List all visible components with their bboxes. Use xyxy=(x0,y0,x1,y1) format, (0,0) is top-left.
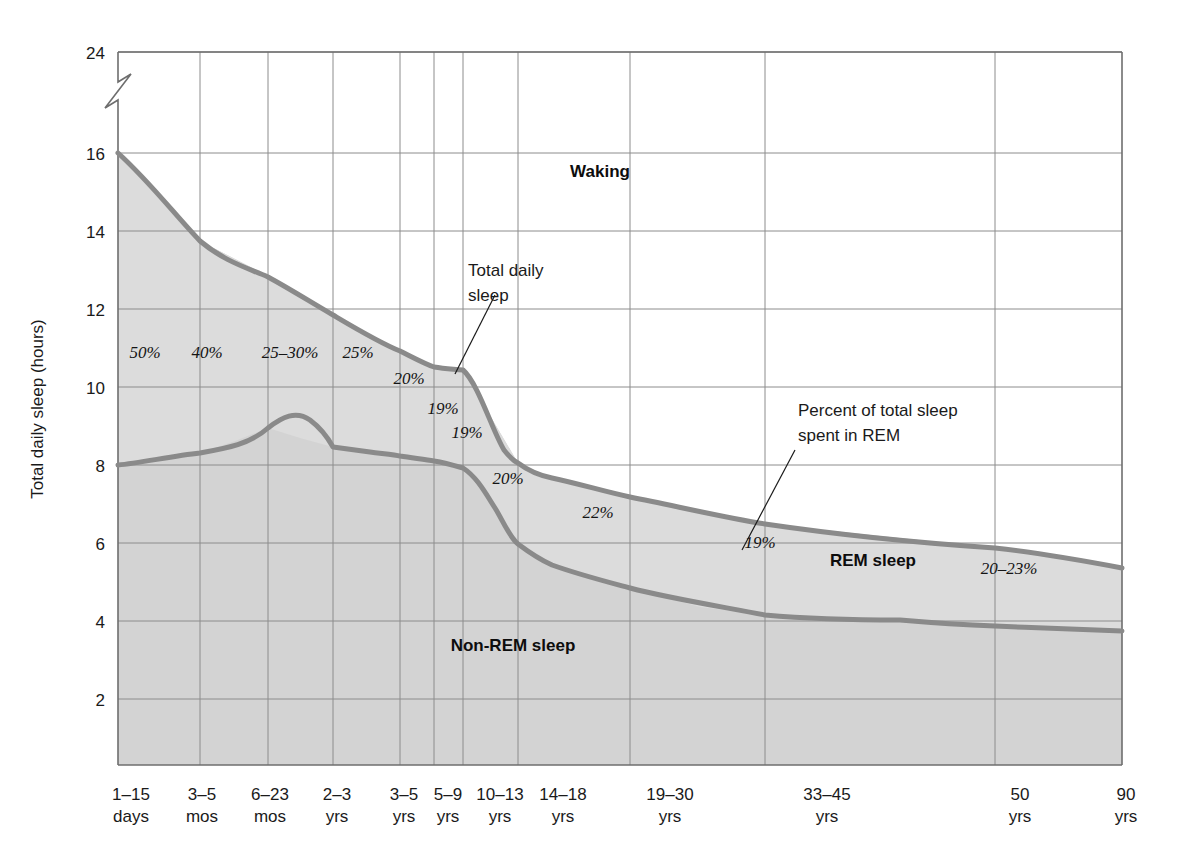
svg-text:yrs: yrs xyxy=(552,807,575,826)
svg-text:50: 50 xyxy=(1011,785,1030,804)
svg-text:yrs: yrs xyxy=(1009,807,1032,826)
svg-text:3–5: 3–5 xyxy=(390,785,418,804)
svg-text:days: days xyxy=(113,807,149,826)
y-tick-10: 10 xyxy=(86,379,105,398)
svg-text:14–18: 14–18 xyxy=(539,785,586,804)
svg-text:spent in REM: spent in REM xyxy=(798,426,900,445)
y-tick-6: 6 xyxy=(96,535,105,554)
rem-pct-label-20a: 20% xyxy=(393,369,424,388)
svg-text:yrs: yrs xyxy=(437,807,460,826)
svg-text:Percent of total sleep: Percent of total sleep xyxy=(798,401,958,420)
x-tick-2-3-yrs: 2–3 yrs xyxy=(323,785,351,826)
rem-pct-label-19a: 19% xyxy=(427,399,458,418)
y-tick-8: 8 xyxy=(96,457,105,476)
svg-text:10–13: 10–13 xyxy=(476,785,523,804)
svg-text:mos: mos xyxy=(254,807,286,826)
y-tick-24: 24 xyxy=(86,44,105,63)
y-tick-2: 2 xyxy=(96,691,105,710)
svg-text:1–15: 1–15 xyxy=(112,785,150,804)
rem-pct-label-19c: 19% xyxy=(744,533,775,552)
x-tick-10-13-yrs: 10–13 yrs xyxy=(476,785,523,826)
y-tick-16: 16 xyxy=(86,145,105,164)
svg-text:sleep: sleep xyxy=(468,286,509,305)
rem-pct-label-40: 40% xyxy=(191,343,222,362)
y-tick-4: 4 xyxy=(96,613,105,632)
svg-text:33–45: 33–45 xyxy=(803,785,850,804)
svg-text:yrs: yrs xyxy=(393,807,416,826)
svg-text:yrs: yrs xyxy=(489,807,512,826)
rem-pct-label-25-30: 25–30% xyxy=(262,343,319,362)
svg-text:6–23: 6–23 xyxy=(251,785,289,804)
svg-text:5–9: 5–9 xyxy=(434,785,462,804)
rem-pct-label-19b: 19% xyxy=(451,423,482,442)
x-tick-6-23-mos: 6–23 mos xyxy=(251,785,289,826)
svg-text:90: 90 xyxy=(1117,785,1136,804)
x-tick-19-30-yrs: 19–30 yrs xyxy=(646,785,693,826)
y-axis-title: Total daily sleep (hours) xyxy=(28,319,47,499)
rem-pct-label-50: 50% xyxy=(129,343,160,362)
chart-canvas: Total daily sleep (hours) 2 4 6 8 10 12 … xyxy=(0,0,1186,861)
svg-text:19–30: 19–30 xyxy=(646,785,693,804)
y-tick-12: 12 xyxy=(86,301,105,320)
region-label-non-rem-sleep: Non-REM sleep xyxy=(451,636,576,655)
x-tick-5-9-yrs: 5–9 yrs xyxy=(434,785,462,826)
x-tick-33-45-yrs: 33–45 yrs xyxy=(803,785,850,826)
sleep-chart-figure: Total daily sleep (hours) 2 4 6 8 10 12 … xyxy=(0,0,1186,861)
y-tick-14: 14 xyxy=(86,223,105,242)
x-tick-3-5-yrs: 3–5 yrs xyxy=(390,785,418,826)
svg-text:yrs: yrs xyxy=(326,807,349,826)
rem-pct-label-20-23: 20–23% xyxy=(981,559,1038,578)
x-tick-14-18-yrs: 14–18 yrs xyxy=(539,785,586,826)
svg-text:mos: mos xyxy=(186,807,218,826)
x-tick-50-yrs: 50 yrs xyxy=(1009,785,1032,826)
svg-text:yrs: yrs xyxy=(1115,807,1138,826)
rem-pct-label-22: 22% xyxy=(582,503,613,522)
region-label-rem-sleep: REM sleep xyxy=(830,551,916,570)
svg-text:yrs: yrs xyxy=(659,807,682,826)
x-tick-90-yrs: 90 yrs xyxy=(1115,785,1138,826)
svg-text:Total daily: Total daily xyxy=(468,261,544,280)
x-tick-1-15-days: 1–15 days xyxy=(112,785,150,826)
rem-pct-label-25: 25% xyxy=(342,343,373,362)
svg-text:yrs: yrs xyxy=(816,807,839,826)
svg-text:3–5: 3–5 xyxy=(188,785,216,804)
region-label-waking: Waking xyxy=(570,162,630,181)
rem-pct-label-20b: 20% xyxy=(492,469,523,488)
svg-text:2–3: 2–3 xyxy=(323,785,351,804)
x-tick-3-5-mos: 3–5 mos xyxy=(186,785,218,826)
